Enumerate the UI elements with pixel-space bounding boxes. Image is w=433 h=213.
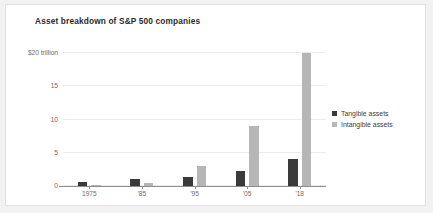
chart-legend: Tangible assetsIntangible assets xyxy=(332,110,393,131)
x-axis-tick-label: '85 xyxy=(138,190,147,197)
x-axis-tick-label: '05 xyxy=(243,190,252,197)
chart-figure: Asset breakdown of S&P 500 companies 051… xyxy=(5,4,426,206)
x-axis-tick-label: '95 xyxy=(190,190,199,197)
y-axis-tick-label: 10 xyxy=(51,115,58,122)
bar-tangible xyxy=(236,171,246,186)
x-axis-tick-label: 1975 xyxy=(82,190,97,197)
legend-item[interactable]: Intangible assets xyxy=(332,121,393,128)
bar-intangible xyxy=(249,126,259,186)
bar-tangible xyxy=(288,159,298,186)
bar-group xyxy=(130,53,153,186)
bar-intangible xyxy=(197,166,207,186)
legend-item[interactable]: Tangible assets xyxy=(332,110,393,117)
bar-group xyxy=(183,53,206,186)
y-axis-tick-label: 15 xyxy=(51,82,58,89)
bar-group xyxy=(288,53,311,186)
legend-swatch-tangible xyxy=(332,111,337,116)
chart-title: Asset breakdown of S&P 500 companies xyxy=(35,16,200,26)
y-axis-tick-label: 0 xyxy=(54,182,58,189)
bar-tangible xyxy=(130,179,140,186)
plot-area: 051015$20 trillion 1975'85'95'05'18 xyxy=(63,53,326,186)
y-axis-tick-label: 5 xyxy=(54,148,58,155)
bar-tangible xyxy=(183,177,193,186)
y-axis-tick-label: $20 trillion xyxy=(28,49,58,56)
legend-label: Intangible assets xyxy=(341,121,393,128)
legend-label: Tangible assets xyxy=(341,110,389,117)
bar-intangible xyxy=(302,53,312,186)
x-axis-line xyxy=(59,186,326,187)
legend-swatch-intangible xyxy=(332,122,337,127)
x-axis-tick-label: '18 xyxy=(295,190,304,197)
bar-group xyxy=(236,53,259,186)
bar-group xyxy=(78,53,101,186)
